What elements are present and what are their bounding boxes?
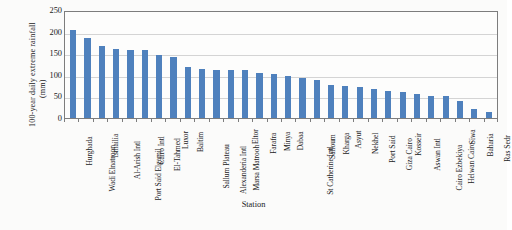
bar [256, 73, 262, 118]
bar-series [65, 12, 497, 118]
category-label: Ismailia [112, 134, 120, 158]
bar [113, 49, 119, 118]
category-label: Farafra [270, 133, 278, 154]
bar [99, 46, 105, 118]
bar [443, 96, 449, 118]
bar [314, 80, 320, 118]
category-label: Cairo Intl [158, 136, 166, 164]
bar [242, 70, 248, 118]
x-axis-title: Station [0, 200, 507, 209]
bar [70, 30, 76, 118]
bar [185, 67, 191, 118]
category-label: Hurghada [86, 137, 94, 166]
category-label: Al-Arish Intl [134, 141, 142, 179]
category-label: Luxor [182, 131, 190, 149]
bar [156, 55, 162, 118]
category-label: Giza Cairo [406, 138, 414, 170]
bar [371, 89, 377, 118]
category-label: Nekhel [371, 133, 379, 154]
bar [84, 38, 90, 118]
bar [199, 69, 205, 118]
bar [127, 50, 133, 118]
y-axis-tick-label: 100 [49, 72, 62, 80]
category-label: Helwan Cairo [468, 143, 476, 184]
bar [271, 74, 277, 118]
category-label: Sallum Plateau [224, 144, 232, 188]
bar [342, 86, 348, 118]
category-label: Marsa Matrooh [253, 145, 261, 191]
plot-area [64, 11, 498, 119]
bar [285, 76, 291, 118]
y-axis-tick-label: 200 [49, 28, 62, 36]
bar [213, 70, 219, 118]
bar [428, 96, 434, 118]
y-axis-title-text: 100-year daily extreme rainfall [28, 22, 37, 127]
y-axis-tick-label: 50 [54, 93, 62, 101]
category-label: Baharia [488, 133, 496, 156]
bar [486, 112, 492, 118]
category-label: Alexanderia Intl [240, 146, 248, 194]
bar [457, 101, 463, 118]
bar [170, 57, 176, 118]
bar [414, 94, 420, 118]
x-axis-category-labels: HurghadaWadi ElnatroonIsmailiaAl-Arish I… [64, 122, 498, 196]
bar [357, 87, 363, 118]
category-label: Eltor [252, 129, 260, 144]
category-label: Minya [283, 132, 291, 151]
bar [328, 85, 334, 118]
category-label: Asyut [355, 131, 363, 149]
category-label: Port Said [389, 136, 397, 163]
category-label: Siwa [469, 129, 477, 144]
bar [228, 70, 234, 118]
y-axis-tick-label: 0 [58, 115, 62, 123]
bar [142, 50, 148, 118]
bar [471, 109, 477, 118]
category-label: Kosseir [415, 133, 423, 156]
bar [400, 92, 406, 118]
y-axis-tick-label: 150 [49, 50, 62, 58]
bar [299, 78, 305, 118]
bar [385, 91, 391, 118]
category-label: Ras Sedr [504, 135, 512, 161]
category-label: Aswan Intl [435, 138, 443, 171]
category-label: Dabaa [298, 131, 306, 150]
y-axis-tick-labels: 050100150200250 [38, 11, 62, 119]
category-label: Kharga [342, 133, 350, 155]
category-label: Baltim [197, 132, 205, 152]
category-label: Salloum [329, 134, 337, 159]
category-label: Cairo Ezbekiya [456, 145, 464, 191]
y-axis-tick-label: 250 [49, 7, 62, 15]
